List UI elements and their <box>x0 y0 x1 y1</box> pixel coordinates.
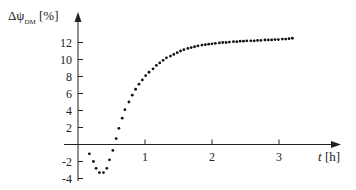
data-point <box>169 55 172 58</box>
y-tick-label: 2 <box>52 122 72 134</box>
y-tick-label: -4 <box>52 173 72 185</box>
x-tick-label: 3 <box>271 151 287 163</box>
y-tick-label: 10 <box>52 54 72 66</box>
data-point <box>162 59 165 62</box>
data-point <box>134 88 137 91</box>
data-point <box>98 171 101 174</box>
data-point <box>288 37 291 40</box>
y-tick-label: 8 <box>52 71 72 83</box>
data-point <box>270 39 273 42</box>
data-point <box>92 160 95 163</box>
data-point <box>124 108 127 111</box>
data-point <box>128 101 131 104</box>
data-point <box>221 41 224 44</box>
data-point <box>193 45 196 48</box>
data-point <box>225 41 228 44</box>
data-point <box>144 74 147 77</box>
data-point <box>214 42 217 45</box>
data-point <box>211 42 214 45</box>
x-tick-label: 1 <box>137 151 153 163</box>
data-point <box>260 39 263 42</box>
data-point <box>117 127 120 130</box>
y-axis-unit: [%] <box>39 8 59 23</box>
y-tick-label: 6 <box>52 88 72 100</box>
data-point <box>182 48 185 51</box>
data-point <box>172 53 175 56</box>
data-point <box>245 39 248 42</box>
data-point <box>284 38 287 41</box>
data-point <box>235 40 238 43</box>
data-point <box>239 40 242 43</box>
data-point <box>108 158 111 161</box>
data-point <box>197 45 200 48</box>
y-tick-label: 12 <box>52 37 72 49</box>
y-axis-label: ΔψDM [%] <box>8 9 59 29</box>
y-axis-arrow-icon <box>75 12 82 22</box>
data-point <box>102 171 105 174</box>
data-point <box>253 39 256 42</box>
data-point <box>176 51 179 54</box>
data-point <box>138 83 141 86</box>
data-point <box>148 71 151 74</box>
data-point <box>267 39 270 42</box>
data-point <box>141 79 144 82</box>
y-axis-symbol: Δψ <box>8 8 25 23</box>
data-point <box>95 167 98 170</box>
data-point <box>204 43 207 46</box>
data-point <box>190 46 193 49</box>
data-point <box>131 94 134 97</box>
data-point <box>105 167 108 170</box>
x-axis-label: t [h] <box>318 150 340 163</box>
data-point <box>111 149 114 152</box>
data-point <box>232 40 235 43</box>
data-point <box>218 42 221 45</box>
data-point <box>155 64 158 67</box>
data-point <box>291 37 294 40</box>
data-point <box>201 44 204 47</box>
data-point <box>88 152 91 155</box>
y-tick-label: 4 <box>52 105 72 117</box>
data-point <box>249 39 252 42</box>
x-axis-unit: [h] <box>325 149 340 164</box>
data-point <box>121 117 124 120</box>
x-tick-label: 2 <box>204 151 220 163</box>
data-point <box>274 38 277 41</box>
chart: ΔψDM [%] t [h] 12108642-2-4 123 <box>0 0 356 190</box>
x-axis-symbol: t <box>318 149 322 164</box>
data-point <box>256 39 259 42</box>
data-point <box>186 47 189 50</box>
data-point <box>207 43 210 46</box>
data-point <box>242 40 245 43</box>
data-point <box>152 67 155 70</box>
data-point <box>179 50 182 53</box>
y-axis-subscript: DM <box>25 18 36 26</box>
data-point <box>264 39 267 42</box>
x-axis-arrow-icon <box>331 141 341 148</box>
y-tick-label: -2 <box>52 156 72 168</box>
data-point <box>115 137 118 140</box>
data-point <box>165 56 168 59</box>
data-point <box>228 41 231 44</box>
data-point <box>277 38 280 41</box>
data-point <box>281 38 284 41</box>
data-point <box>158 62 161 65</box>
